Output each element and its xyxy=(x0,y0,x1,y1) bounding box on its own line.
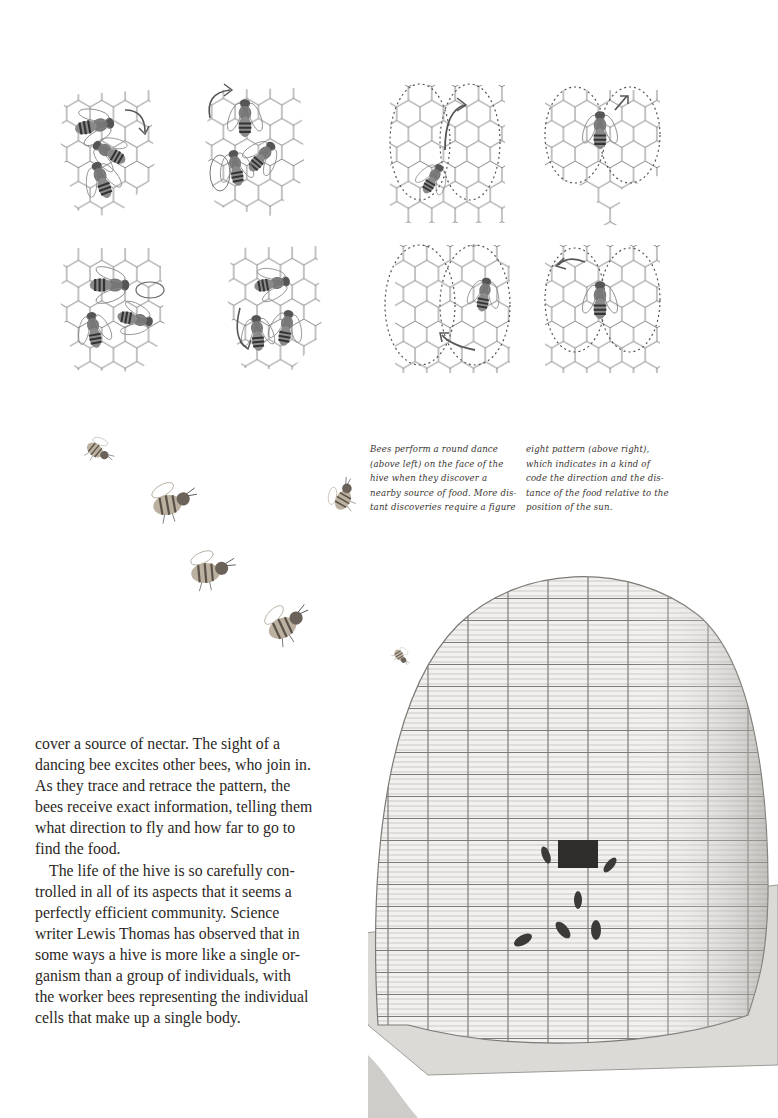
caption-line: code the direction and the dis- xyxy=(526,471,676,486)
caption-line: which indicates in a kind of xyxy=(526,457,676,472)
figure-eight-illustration-4 xyxy=(540,240,665,375)
body-line: dancing bee excites other bees, who join… xyxy=(35,754,333,775)
caption-line: nearby source of food. More dis- xyxy=(370,486,510,501)
body-line: The life of the hive is so carefully con… xyxy=(35,860,333,881)
body-line: perfectly efficient community. Science xyxy=(35,902,333,923)
body-line: the worker bees representing the individ… xyxy=(35,986,333,1007)
illustration-caption-col2: eight pattern (above right), which indic… xyxy=(526,442,676,515)
round-dance-illustration-2 xyxy=(200,78,310,218)
caption-line: Bees perform a round dance xyxy=(370,442,510,457)
body-text: cover a source of nectar. The sight of a… xyxy=(35,733,333,1028)
body-line: what direction to fly and how far to go … xyxy=(35,817,333,838)
figure-eight-illustration-2 xyxy=(540,80,665,225)
body-line: cover a source of nectar. The sight of a xyxy=(35,733,333,754)
caption-line: (above left) on the face of the xyxy=(370,457,510,472)
body-line: ganism than a group of individuals, with xyxy=(35,965,333,986)
body-line: bees receive exact information, telling … xyxy=(35,796,333,817)
paragraph-2: The life of the hive is so carefully con… xyxy=(35,860,333,1029)
round-dance-illustration-4 xyxy=(222,238,327,373)
caption-line: hive when they discover a xyxy=(370,471,510,486)
body-line: find the food. xyxy=(35,838,333,859)
flying-bee-icon xyxy=(130,475,205,535)
paragraph-1: cover a source of nectar. The sight of a… xyxy=(35,733,333,860)
body-line: trolled in all of its aspects that it se… xyxy=(35,881,333,902)
caption-line: tance of the food relative to the xyxy=(526,486,676,501)
flying-bee-icon xyxy=(245,598,320,658)
figure-eight-illustration-3 xyxy=(380,240,515,375)
body-line: writer Lewis Thomas has observed that in xyxy=(35,923,333,944)
body-line: some ways a hive is more like a single o… xyxy=(35,944,333,965)
round-dance-illustration-1 xyxy=(55,80,160,220)
flying-bee-icon xyxy=(318,475,368,525)
body-line: cells that make up a single body. xyxy=(35,1007,333,1028)
figure-eight-illustration-1 xyxy=(385,80,510,225)
caption-line: tant discoveries require a figure xyxy=(370,500,510,515)
body-line: As they trace and retrace the pattern, t… xyxy=(35,775,333,796)
flying-bee-icon xyxy=(168,545,243,600)
beehive-illustration xyxy=(368,555,778,1118)
caption-line: eight pattern (above right), xyxy=(526,442,676,457)
round-dance-illustration-3 xyxy=(55,240,170,375)
caption-line: position of the sun. xyxy=(526,500,676,515)
flying-bee-icon xyxy=(70,428,120,473)
illustration-caption-col1: Bees perform a round dance (above left) … xyxy=(370,442,510,515)
